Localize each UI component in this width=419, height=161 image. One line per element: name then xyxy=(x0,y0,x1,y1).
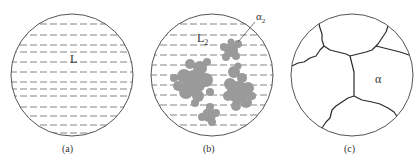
circle-outline xyxy=(11,14,133,136)
phase-label-alpha: α xyxy=(375,72,382,86)
panel-b: α2 L2 (b) xyxy=(150,10,274,155)
phase-label-L: L xyxy=(70,52,77,66)
caption-b: (b) xyxy=(203,143,215,155)
particle xyxy=(220,39,242,62)
grain-boundaries xyxy=(292,20,412,134)
liquid-dash-lines xyxy=(10,24,134,133)
particle xyxy=(198,103,220,126)
particle xyxy=(223,63,256,112)
figure-canvas: L (a) xyxy=(0,0,419,161)
circle-outline xyxy=(291,14,413,136)
panel-a: L (a) xyxy=(10,14,134,155)
panel-c: α (c) xyxy=(291,14,413,155)
alpha2-particles xyxy=(170,39,256,127)
callout-label-alpha2: α2 xyxy=(256,10,266,25)
caption-a: (a) xyxy=(62,143,73,155)
caption-c: (c) xyxy=(344,143,355,155)
phase-label-L2: L2 xyxy=(197,31,208,47)
